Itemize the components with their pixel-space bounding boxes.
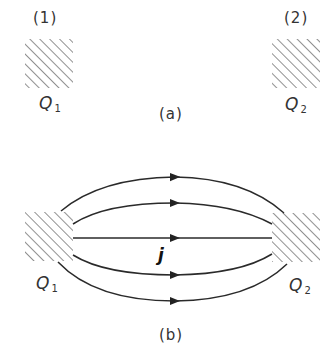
charge-symbol: Q [36,273,49,293]
flow-line-1-right [175,177,284,213]
charge-subscript: 1 [54,103,60,114]
charge-q1-label-b: Q1 [36,275,58,294]
region-q1-a [25,39,73,88]
charge-symbol: Q [285,94,298,114]
diagram-canvas [0,0,332,354]
region-2-index-label: (2) [284,11,308,26]
region-1-index-label: (1) [33,11,57,26]
flow-line-1 [61,177,175,211]
region-q2-a [272,39,320,88]
charge-q2-label-a: Q2 [285,96,307,115]
region-q1-b [25,212,73,261]
charge-symbol: Q [289,275,302,295]
flow-line-2-right [175,203,272,224]
charge-symbol: Q [39,93,52,113]
charge-subscript: 2 [304,285,310,296]
flow-line-2 [73,203,175,224]
caption-a: (a) [159,107,183,122]
charge-q2-label-b: Q2 [289,277,311,296]
charge-subscript: 2 [300,104,306,115]
region-q2-b [272,213,320,262]
current-density-label: j [158,247,164,264]
charge-subscript: 1 [51,283,57,294]
charge-q1-label-a: Q1 [39,95,61,114]
flow-line-4-right [175,254,272,275]
caption-b: (b) [159,328,183,343]
flow-line-5 [58,262,175,301]
